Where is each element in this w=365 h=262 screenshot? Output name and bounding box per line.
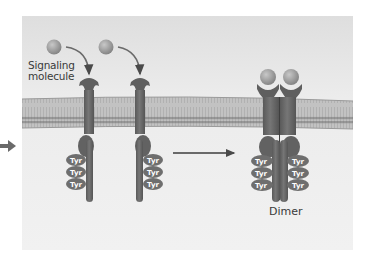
- signaling-molecule-label: Signaling molecule: [28, 60, 75, 82]
- tyr-label: Tyr: [147, 181, 160, 189]
- tyrosine-residues: Tyr Tyr Tyr: [143, 154, 163, 190]
- rtk-dimerization-diagram: Tyr Tyr Tyr Tyr Tyr Tyr: [0, 0, 365, 262]
- tyr-label: Tyr: [255, 182, 268, 190]
- tyr-label: Tyr: [147, 169, 160, 177]
- tyr-label: Tyr: [70, 169, 83, 177]
- tyr-label: Tyr: [255, 170, 268, 178]
- tyr-label: Tyr: [292, 170, 305, 178]
- tyr-label: Tyr: [147, 157, 160, 165]
- cell-membrane: [22, 97, 353, 129]
- tyr-label: Tyr: [292, 182, 305, 190]
- dimer-label: Dimer: [269, 206, 303, 218]
- bound-signaling-molecule: [283, 69, 299, 85]
- tyrosine-residues: Tyr Tyr Tyr: [66, 154, 86, 190]
- signaling-label-line2: molecule: [28, 71, 75, 82]
- tyr-label: Tyr: [70, 157, 83, 165]
- diagram-panel: [22, 16, 353, 250]
- tyrosine-residues-left: Tyr Tyr Tyr: [251, 155, 273, 191]
- tyrosine-residues-right: Tyr Tyr Tyr: [287, 155, 309, 191]
- tyr-label: Tyr: [255, 158, 268, 166]
- bound-signaling-molecule: [260, 69, 276, 85]
- incoming-arrow-icon: [0, 140, 16, 152]
- tyr-label: Tyr: [70, 181, 83, 189]
- tyr-label: Tyr: [292, 158, 305, 166]
